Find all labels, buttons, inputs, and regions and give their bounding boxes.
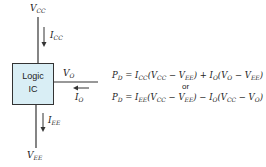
power-equation-2: PD = IEE(VCC − VEE) − IO(VCC − VO) [112,92,263,103]
box-label-ic: IC [12,84,54,94]
vee-label: VEE [27,150,42,161]
icc-label: ICC [50,30,63,41]
equation-or: or [182,82,189,91]
iee-label: IEE [48,115,60,126]
power-equation-1: PD = ICC(VCC − VEE) + IO(VO − VEE) [112,70,263,81]
box-label-logic: Logic [12,71,54,81]
vo-label: VO [63,68,74,79]
io-label: IO [75,92,83,103]
